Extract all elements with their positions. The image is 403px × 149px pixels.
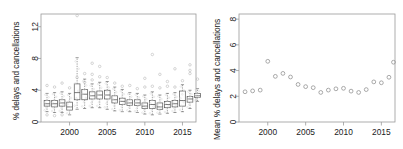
scatter-point	[281, 72, 285, 76]
scatter-point	[304, 85, 308, 89]
box-plot-2012	[157, 73, 163, 114]
y-tick-label: 8	[30, 56, 40, 61]
x-tick-label: 2010	[334, 127, 353, 137]
scatter-point	[243, 90, 247, 94]
y-tick-label: 0	[30, 119, 40, 124]
scatter-point	[251, 89, 255, 93]
panel-boxplot: % delays and cancellations 0481220002005…	[0, 0, 201, 149]
x-tick-label: 2005	[98, 127, 117, 137]
figure-container: % delays and cancellations 0481220002005…	[0, 0, 403, 149]
box-plot-2015	[180, 79, 186, 111]
scatter-point	[387, 75, 391, 79]
y-tick-label: 4	[228, 68, 238, 73]
y-tick-label: 2	[228, 94, 238, 99]
scatter-point	[266, 59, 270, 63]
box-plot-1998	[52, 86, 58, 117]
box-plot-2005	[104, 76, 110, 109]
left-panel-plot: 048122000200520102015	[0, 0, 201, 149]
scatter-point	[273, 74, 277, 78]
scatter-point	[357, 91, 361, 95]
x-tick-label: 2015	[372, 127, 391, 137]
y-tick-label: 12	[30, 22, 40, 32]
y-tick-label: 8	[228, 16, 238, 21]
x-tick-label: 2010	[136, 127, 155, 137]
scatter-series	[243, 59, 395, 94]
scatter-point	[334, 87, 338, 91]
panel-scatter: Mean % delays and cancellations 02468200…	[201, 0, 403, 149]
x-tick-label: 2000	[60, 127, 79, 137]
scatter-point	[296, 83, 300, 87]
x-tick-label: 2000	[258, 127, 277, 137]
box-plot-1999	[59, 82, 65, 116]
y-tick-label: 6	[228, 42, 238, 47]
scatter-point	[319, 91, 323, 95]
scatter-point	[311, 86, 315, 90]
scatter-point	[342, 86, 346, 90]
scatter-point	[258, 88, 262, 92]
scatter-point	[289, 75, 293, 79]
scatter-point	[364, 88, 368, 92]
x-tick-label: 2015	[173, 127, 192, 137]
y-tick-label: 4	[30, 88, 40, 93]
right-panel-plot: 024682000200520102015	[201, 0, 403, 149]
scatter-point	[349, 89, 353, 93]
x-tick-label: 2005	[296, 127, 315, 137]
scatter-point	[372, 80, 376, 84]
box-plot-2004	[97, 65, 103, 108]
box-plot-2011	[150, 53, 156, 115]
scatter-point	[379, 81, 383, 85]
scatter-point	[326, 88, 330, 92]
y-tick-label: 0	[228, 119, 238, 124]
